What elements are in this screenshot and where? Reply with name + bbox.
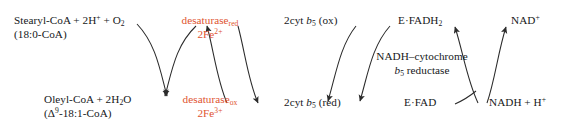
desaturase-ox-iron: 2Fe bbox=[197, 107, 214, 119]
label-nad-plus: NAD+ bbox=[511, 14, 540, 28]
reductase-line-1: NADH–cytochrome bbox=[376, 50, 467, 62]
stearyl-coa-shorthand: (18:0-CoA) bbox=[14, 28, 125, 42]
nadh-h-text: NADH + H bbox=[489, 96, 542, 108]
desaturase-red-iron-line: 2Fe2+ bbox=[172, 28, 248, 42]
label-desaturase-red: desaturasered 2Fe2+ bbox=[172, 14, 248, 41]
stearyl-coa-text: Stearyl-CoA + 2H bbox=[14, 14, 96, 26]
cyt-b5-ox-prefix: 2cyt bbox=[284, 14, 306, 26]
label-cyt-b5-red: 2cyt b5 (red) bbox=[284, 96, 341, 110]
arrow-stearyl-to-oleyl bbox=[137, 24, 167, 96]
oleyl-coa-water-o: O bbox=[123, 93, 131, 105]
connector-efad-stub bbox=[455, 91, 476, 104]
desaturase-red-state: red bbox=[229, 19, 239, 28]
nadh-h-charge: + bbox=[542, 95, 546, 104]
label-nadh-h-plus: NADH + H+ bbox=[489, 96, 546, 110]
oleyl-coa-text: Oleyl-CoA + 2H bbox=[44, 93, 119, 105]
label-nadh-cytochrome-b5-reductase: NADH–cytochrome b5 reductase bbox=[363, 50, 481, 77]
label-desaturase-ox: desaturaseox 2Fe3+ bbox=[172, 93, 248, 120]
arrow-nadh-to-nad bbox=[487, 27, 506, 103]
reductase-word: reductase bbox=[404, 64, 450, 76]
nad-plus-text: NAD bbox=[511, 14, 535, 26]
stearyl-coa-o2-sub: 2 bbox=[121, 19, 125, 28]
desaturase-red-iron: 2Fe bbox=[197, 28, 214, 40]
desaturase-ox-state: ox bbox=[230, 98, 238, 107]
e-fad-text: E·FAD bbox=[404, 96, 436, 108]
cyt-b5-ox-state: (ox) bbox=[316, 14, 338, 26]
oleyl-coa-chain: -18:1-CoA) bbox=[59, 107, 112, 119]
desaturase-ox-charge: 3+ bbox=[214, 106, 222, 115]
desaturase-ox-iron-line: 2Fe3+ bbox=[172, 107, 248, 121]
label-e-fad: E·FAD bbox=[404, 96, 436, 110]
label-e-fadh2: E·FADH2 bbox=[398, 14, 442, 28]
desaturase-red-charge: 2+ bbox=[214, 27, 222, 36]
reductase-line-2: b5 reductase bbox=[363, 64, 481, 78]
reaction-scheme-diagram: Stearyl-CoA + 2H+ + O2 (18:0-CoA) Oleyl-… bbox=[0, 0, 562, 126]
cyt-b5-red-state: (red) bbox=[316, 96, 341, 108]
arrow-cytb5-ox-to-red bbox=[328, 26, 356, 101]
nad-plus-charge: + bbox=[535, 13, 539, 22]
stearyl-coa-o2-text: + O bbox=[101, 14, 121, 26]
label-oleyl-coa: Oleyl-CoA + 2H2O (Δ9-18:1-CoA) bbox=[44, 93, 131, 120]
label-cyt-b5-ox: 2cyt b5 (ox) bbox=[284, 14, 338, 28]
label-stearyl-coa: Stearyl-CoA + 2H+ + O2 (18:0-CoA) bbox=[14, 14, 125, 41]
desaturase-red-name: desaturase bbox=[182, 14, 229, 26]
oleyl-coa-delta: (Δ bbox=[44, 107, 55, 119]
desaturase-ox-name: desaturase bbox=[183, 93, 230, 105]
e-fadh2-text: E·FADH bbox=[398, 14, 439, 26]
cyt-b5-red-prefix: 2cyt bbox=[284, 96, 306, 108]
e-fadh2-sub: 2 bbox=[439, 19, 443, 28]
oleyl-coa-shorthand: (Δ9-18:1-CoA) bbox=[44, 107, 131, 121]
